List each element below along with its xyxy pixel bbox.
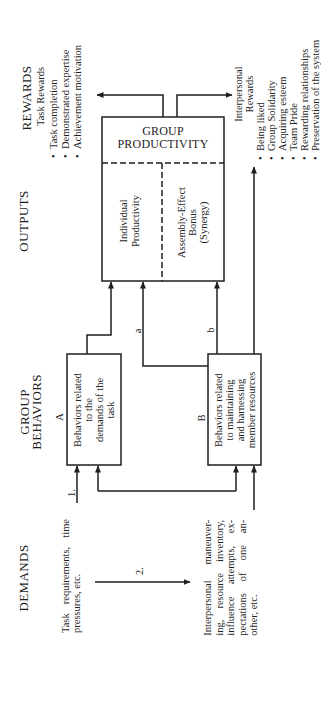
bullet-icon: • bbox=[299, 151, 310, 160]
interpersonal-demands-line3: influence attempts, ex- bbox=[225, 520, 237, 636]
bullet-icon: • bbox=[288, 151, 299, 160]
behavior-b-line3: and harnessing bbox=[235, 358, 246, 462]
list-item: •Preservation of the system bbox=[310, 28, 321, 160]
interpersonal-rewards-title-line2: Rewards bbox=[244, 28, 255, 160]
behavior-a-text: Behaviors related to the demands of the … bbox=[72, 358, 116, 462]
individual-productivity-line1: Individual bbox=[118, 181, 130, 261]
behavior-b-line4: member resources bbox=[246, 358, 257, 462]
bullet-icon: • bbox=[310, 151, 321, 160]
bullet-icon: • bbox=[60, 149, 72, 158]
interpersonal-demands-line4: pectations of one an- bbox=[237, 520, 249, 636]
list-item-text: Team Pride bbox=[288, 103, 299, 151]
list-item: •Acquiring esteem bbox=[277, 28, 288, 160]
behavior-a-line3: demands of the bbox=[94, 358, 105, 462]
task-rewards-block: Task Rewards •Task completion •Demonstra… bbox=[35, 35, 84, 158]
list-item: •Team Pride bbox=[288, 28, 299, 160]
group-productivity-title: GROUP PRODUCTIVITY bbox=[102, 125, 224, 151]
bullet-icon: • bbox=[48, 149, 60, 158]
column-header-group-behaviors-line2: BEHAVIORS bbox=[31, 374, 43, 450]
behavior-a-line4: task bbox=[105, 358, 116, 462]
list-item: •Being liked bbox=[255, 28, 266, 160]
group-productivity-title-line2: PRODUCTIVITY bbox=[102, 138, 224, 151]
list-item-text: Achievement motivation bbox=[72, 45, 83, 149]
list-item: •Demonstrated expertise bbox=[60, 35, 72, 158]
behavior-a-line1: Behaviors related bbox=[72, 358, 83, 462]
interpersonal-rewards-block: Interpersonal Rewards •Being liked •Grou… bbox=[233, 28, 321, 160]
list-item-text: Rewarding relationships bbox=[299, 49, 310, 151]
individual-productivity-line2: Productivity bbox=[130, 181, 142, 261]
column-header-rewards: REWARDS bbox=[20, 63, 34, 133]
arrow-productivity-to-interpersonal-rewards bbox=[177, 95, 232, 117]
list-item-text: Group Solidarity bbox=[266, 80, 277, 151]
task-demands-text: Task requirements, time pressures, etc. bbox=[60, 519, 82, 633]
edge-label-1: 1. bbox=[66, 487, 78, 499]
interpersonal-rewards-title-line1: Interpersonal bbox=[233, 28, 244, 160]
bullet-icon: • bbox=[255, 151, 266, 160]
task-demands-line1: Task requirements, time bbox=[60, 519, 71, 633]
interpersonal-demands-line5: other, etc. bbox=[248, 520, 260, 636]
assembly-effect-line2: Bonus bbox=[186, 182, 197, 262]
bullet-icon: • bbox=[72, 149, 84, 158]
edge-label-2: 2. bbox=[134, 565, 146, 577]
interpersonal-demands-line1: Interpersonal maneuver- bbox=[202, 520, 214, 636]
arrow-a-to-individual-productivity bbox=[87, 282, 111, 354]
list-item-text: Demonstrated expertise bbox=[60, 50, 71, 149]
column-header-demands: DEMANDS bbox=[17, 543, 31, 613]
list-item-text: Being liked bbox=[255, 102, 266, 151]
list-item: •Achievement motivation bbox=[72, 35, 84, 158]
edge-label-a: a bbox=[132, 325, 144, 337]
behavior-b-label: B bbox=[196, 412, 208, 424]
assembly-effect-line1: Assembly-Effect bbox=[175, 182, 186, 262]
assembly-effect-bonus-label: Assembly-Effect Bonus (Synergy) bbox=[175, 182, 208, 262]
task-demands-line2: pressures, etc. bbox=[71, 519, 82, 633]
list-item-text: Preservation of the system bbox=[310, 40, 321, 151]
behavior-b-text: Behaviors related to maintaining and har… bbox=[213, 358, 257, 462]
list-item: •Group Solidarity bbox=[266, 28, 277, 160]
column-header-group-behaviors: GROUP BEHAVIORS bbox=[19, 374, 43, 450]
arrow-b-to-individual-productivity-a bbox=[143, 282, 208, 366]
list-item: •Task completion bbox=[48, 35, 60, 158]
task-rewards-title: Task Rewards bbox=[35, 35, 47, 158]
list-item: •Rewarding relationships bbox=[299, 28, 310, 160]
interpersonal-demands-text: Interpersonal maneuver- ing, resource in… bbox=[202, 520, 260, 636]
assembly-effect-line3: (Synergy) bbox=[197, 182, 208, 262]
behavior-a-line2: to the bbox=[83, 358, 94, 462]
individual-productivity-label: Individual Productivity bbox=[118, 181, 142, 261]
behavior-b-line1: Behaviors related bbox=[213, 358, 224, 462]
edge-label-b: b bbox=[205, 324, 217, 336]
list-item-text: Task completion bbox=[48, 79, 59, 149]
arrow-productivity-to-task-rewards bbox=[97, 95, 163, 117]
interpersonal-demands-line2: ing, resource inventory, bbox=[214, 520, 226, 636]
behavior-b-line2: to maintaining bbox=[224, 358, 235, 462]
column-header-outputs: OUTPUTS bbox=[17, 189, 31, 253]
bullet-icon: • bbox=[266, 151, 277, 160]
bullet-icon: • bbox=[277, 151, 288, 160]
list-item-text: Acquiring esteem bbox=[277, 77, 288, 151]
behavior-a-label: A bbox=[54, 411, 66, 423]
